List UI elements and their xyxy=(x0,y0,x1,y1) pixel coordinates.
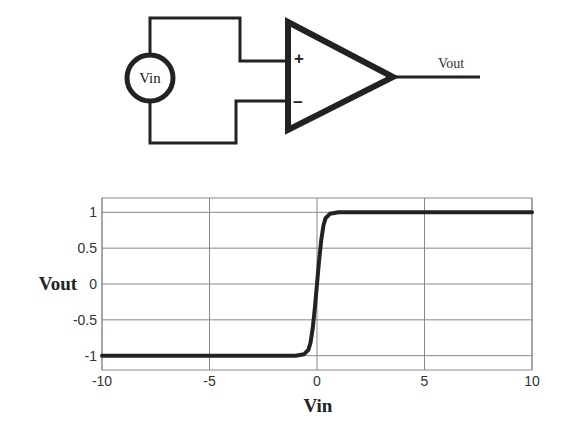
x-axis-label: Vin xyxy=(304,395,333,416)
opamp-circuit xyxy=(127,18,480,143)
minus-input-symbol: − xyxy=(293,93,303,112)
output-label: Vout xyxy=(438,56,464,71)
plus-input-symbol: + xyxy=(294,49,304,68)
y-tick-label: 1 xyxy=(89,204,97,220)
source-label: Vin xyxy=(139,70,161,86)
y-tick-label: -1 xyxy=(85,348,98,364)
y-tick-label: -0.5 xyxy=(73,312,97,328)
y-tick-label: 0 xyxy=(89,276,97,292)
figure: Vin + − Vout 10.50-0.5-1 -10-50510 Vout … xyxy=(0,0,565,438)
x-tick-label: 0 xyxy=(313,373,321,389)
wire-plus-input xyxy=(150,18,288,61)
x-tick-label: 5 xyxy=(421,373,429,389)
x-tick-label: -5 xyxy=(203,373,216,389)
y-axis-label: Vout xyxy=(39,273,78,294)
wire-minus-input xyxy=(150,101,288,143)
y-tick-label: 0.5 xyxy=(78,240,98,256)
opamp-triangle-icon xyxy=(288,22,393,130)
transfer-curve-chart: 10.50-0.5-1 -10-50510 xyxy=(73,198,540,389)
x-tick-label: 10 xyxy=(524,373,540,389)
x-tick-label: -10 xyxy=(92,373,112,389)
x-tick-labels: -10-50510 xyxy=(92,373,540,389)
